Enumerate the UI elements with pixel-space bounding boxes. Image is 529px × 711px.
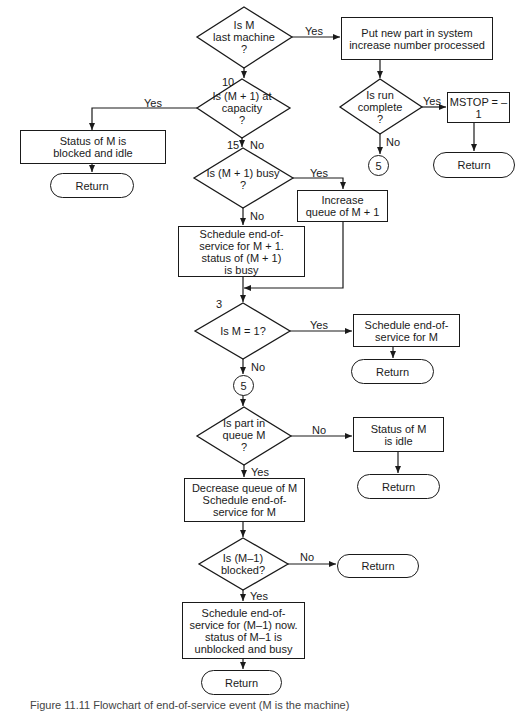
process-schedule-m: Schedule end-of- service for M	[353, 314, 460, 347]
connector-5-in: 5	[233, 375, 254, 396]
decision-part-in-queue: Is part in queue M ?	[206, 414, 282, 456]
statement-number-3: 3	[216, 298, 222, 310]
process-decrease-queue: Decrease queue of M Schedule end-of- ser…	[184, 478, 305, 522]
process-schedule-next: Schedule end-of- service for M + 1. stat…	[178, 226, 305, 277]
connector-5-out: 5	[368, 155, 389, 176]
edge-label-yes-last-machine: Yes	[305, 25, 323, 37]
edge-label-yes-part-in-queue: Yes	[251, 466, 269, 478]
terminal-return-3: Return	[351, 359, 434, 384]
statement-number-10: 10	[222, 76, 234, 88]
process-put-new-part: Put new part in system increase number p…	[341, 17, 493, 60]
edge-label-yes-prev-blocked: Yes	[250, 590, 268, 602]
process-mstop: MSTOP = –1	[447, 92, 510, 123]
terminal-return-6: Return	[201, 670, 282, 695]
statement-number-15: 15	[227, 139, 239, 151]
edge-label-yes-run-complete: Yes	[423, 95, 441, 107]
terminal-return-1: Return	[50, 173, 134, 198]
edge-label-yes-m-equals-1: Yes	[310, 319, 328, 331]
process-schedule-prev: Schedule end-of- service for (M–1) now. …	[182, 602, 305, 659]
decision-at-capacity: Is (M + 1) at capacity ?	[200, 86, 284, 130]
edge-label-no-busy: No	[250, 210, 264, 222]
decision-prev-blocked: Is (M–1) blocked?	[206, 550, 280, 578]
decision-run-complete: Is run complete ?	[346, 86, 414, 128]
edge-label-no-run-complete: No	[386, 136, 400, 148]
edge-label-no-part-in-queue: No	[312, 424, 326, 436]
edge-label-no-prev-blocked: No	[300, 551, 314, 563]
decision-m-equals-1: Is M = 1?	[203, 323, 283, 339]
terminal-return-5: Return	[337, 554, 419, 578]
process-status-idle: Status of M is idle	[353, 417, 444, 452]
process-increase-queue: Increase queue of M + 1	[297, 190, 388, 222]
edge-label-no-at-capacity: No	[250, 139, 264, 151]
terminal-return-4: Return	[357, 474, 440, 499]
terminal-return-2: Return	[433, 152, 515, 178]
process-blocked-idle: Status of M is blocked and idle	[20, 130, 166, 164]
decision-last-machine: Is M last machine ?	[205, 14, 283, 60]
edge-label-yes-busy: Yes	[310, 167, 328, 179]
edge-label-yes-at-capacity: Yes	[144, 97, 162, 109]
figure-caption: Figure 11.11 Flowchart of end-of-service…	[30, 699, 349, 711]
decision-busy: Is (M + 1) busy ?	[196, 166, 290, 192]
edge-label-no-m-equals-1: No	[251, 361, 265, 373]
